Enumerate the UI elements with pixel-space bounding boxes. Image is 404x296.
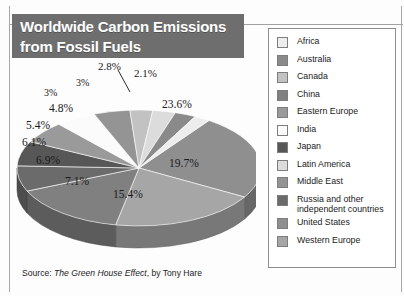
data-label-china: 15.4% xyxy=(113,189,143,200)
legend-swatch-icon xyxy=(277,125,288,136)
data-label-australia: 2.8% xyxy=(98,61,121,72)
data-label-india: 5.4% xyxy=(26,120,50,131)
legend-item-australia[interactable]: Australia xyxy=(277,54,391,69)
data-label-russia: 7.1% xyxy=(65,176,89,187)
legend-swatch-icon xyxy=(277,236,288,247)
legend-swatch-icon xyxy=(277,107,288,118)
data-label-japan: 6.9% xyxy=(36,155,60,166)
legend-swatch-icon xyxy=(277,177,288,188)
data-label-africa: 2.1% xyxy=(134,68,157,79)
legend-swatch-icon xyxy=(277,90,288,101)
chart-title-banner: Worldwide Carbon Emissions from Fossil F… xyxy=(12,14,244,58)
leader-line-australia xyxy=(118,70,130,92)
legend-swatch-icon xyxy=(277,195,288,206)
data-label-eastern-europe: 6.1% xyxy=(22,137,46,148)
chart-plot-area: 23.6% 19.7% 15.4% 7.1% 6.9% 6.1% 5.4% 4.… xyxy=(8,58,256,258)
data-label-united-states: 23.6% xyxy=(162,99,192,110)
legend-item-latin-america[interactable]: Latin America xyxy=(277,159,391,174)
legend-swatch-icon xyxy=(277,72,288,83)
legend-item-label: Australia xyxy=(297,54,331,65)
chart-title-line-2: from Fossil Fuels xyxy=(20,37,244,57)
legend-item-united-states[interactable]: United States xyxy=(277,217,391,232)
legend-item-label-line2: independent countries xyxy=(297,204,384,215)
legend-item-label: Western Europe xyxy=(297,235,360,246)
frame-rule-right xyxy=(401,6,402,292)
source-note: Source: The Green House Effect, by Tony … xyxy=(22,268,202,278)
legend-item-label: India xyxy=(297,124,316,135)
legend-item-label: Japan xyxy=(297,141,321,152)
data-label-middle-east: 4.8% xyxy=(49,103,73,114)
legend-swatch-icon xyxy=(277,142,288,153)
legend-item-canada[interactable]: Canada xyxy=(277,71,391,86)
legend-item-india[interactable]: India xyxy=(277,124,391,139)
legend-item-label: China xyxy=(297,89,320,100)
legend-swatch-icon xyxy=(277,55,288,66)
legend-swatch-icon xyxy=(277,37,288,48)
legend-item-label: United States xyxy=(297,217,350,228)
legend-item-label: Russia and otherindependent countries xyxy=(297,194,384,215)
legend-item-label: Africa xyxy=(297,36,320,47)
pie-slices xyxy=(17,110,256,226)
pie-chart: 23.6% 19.7% 15.4% 7.1% 6.9% 6.1% 5.4% 4.… xyxy=(8,58,256,258)
legend: AfricaAustraliaCanadaChinaEastern Europe… xyxy=(268,28,396,268)
data-label-latin-america: 3% xyxy=(76,77,89,88)
data-label-western-europe: 19.7% xyxy=(169,158,199,169)
legend-item-label: Middle East xyxy=(297,176,343,187)
legend-item-china[interactable]: China xyxy=(277,89,391,104)
legend-item-eastern-europe[interactable]: Eastern Europe xyxy=(277,106,391,121)
legend-item-label: Latin America xyxy=(297,159,350,170)
legend-item-japan[interactable]: Japan xyxy=(277,141,391,156)
source-suffix: , by Tony Hare xyxy=(147,268,202,278)
chart-title-line-1: Worldwide Carbon Emissions xyxy=(20,17,244,37)
legend-item-western-europe[interactable]: Western Europe xyxy=(277,235,391,250)
figure-container: Worldwide Carbon Emissions from Fossil F… xyxy=(0,0,404,296)
legend-swatch-icon xyxy=(277,218,288,229)
legend-item-middle-east[interactable]: Middle East xyxy=(277,176,391,191)
source-prefix: Source: xyxy=(22,268,54,278)
legend-item-africa[interactable]: Africa xyxy=(277,36,391,51)
legend-swatch-icon xyxy=(277,160,288,171)
legend-item-label: Canada xyxy=(297,71,328,82)
legend-item-label: Eastern Europe xyxy=(297,106,358,117)
data-label-canada: 3% xyxy=(44,87,57,98)
legend-item-russia-and-other[interactable]: Russia and otherindependent countries xyxy=(277,194,391,215)
source-book-title: The Green House Effect xyxy=(54,268,147,278)
